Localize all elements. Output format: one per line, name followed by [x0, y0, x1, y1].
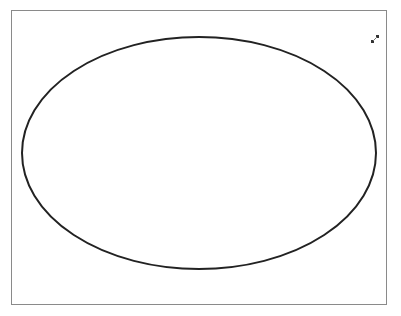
ellipse-drawing	[0, 0, 401, 316]
ellipse-shape[interactable]	[22, 37, 376, 269]
resize-diagonal-icon[interactable]	[371, 29, 379, 37]
